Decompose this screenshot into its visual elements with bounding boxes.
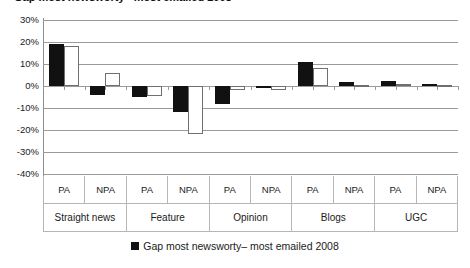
axis-tick [168, 86, 169, 90]
subcategory-label: NPA [251, 176, 292, 204]
axis-tick [251, 86, 252, 90]
axis-tick [396, 86, 397, 90]
subcategory-label: PA [44, 176, 85, 204]
bar [64, 46, 79, 86]
y-tick-label: -20% [5, 125, 39, 135]
group-label: Straight news [44, 204, 127, 231]
axis-tick [85, 86, 86, 90]
bar [339, 82, 354, 86]
subcategory-label: PA [127, 176, 168, 204]
group-row: Straight newsFeatureOpinionBlogsUGC [44, 204, 457, 231]
subcategory-label: PA [292, 176, 333, 204]
y-tick-label: 10% [5, 59, 39, 69]
y-tick-label: 30% [5, 15, 39, 25]
axis-tick [209, 86, 210, 90]
bar [173, 86, 188, 112]
legend-swatch-icon [131, 242, 139, 250]
bar [271, 86, 286, 90]
gridline--10 [43, 108, 458, 109]
bar [313, 68, 328, 86]
axis-tick [458, 86, 459, 90]
gridline-20 [43, 42, 458, 43]
subcategory-label: PA [210, 176, 251, 204]
bar [215, 86, 230, 104]
chart-legend: Gap most newsworty– most emailed 2008 [0, 240, 470, 252]
subcategory-label: NPA [85, 176, 126, 204]
y-tick-label: -10% [5, 103, 39, 113]
plot-area [43, 20, 458, 174]
bar [437, 85, 452, 87]
category-axis-table: PANPAPANPAPANPAPANPAPANPA Straight newsF… [43, 176, 458, 232]
bar [354, 85, 369, 87]
group-label: Feature [127, 204, 210, 231]
axis-tick [292, 86, 293, 90]
bar [132, 86, 147, 97]
subcategory-label: NPA [334, 176, 375, 204]
bar [105, 73, 120, 86]
axis-tick [313, 86, 314, 90]
y-tick-label: 0% [5, 81, 39, 91]
bar [49, 44, 64, 86]
bar [381, 81, 396, 87]
y-tick-label: -40% [5, 169, 39, 179]
gridline-10 [43, 64, 458, 65]
axis-tick [64, 86, 65, 90]
subcategory-label: NPA [168, 176, 209, 204]
gridline-30 [43, 20, 458, 21]
bar [422, 84, 437, 86]
group-label: Blogs [292, 204, 375, 231]
subcategory-label: PA [375, 176, 416, 204]
gridline--20 [43, 130, 458, 131]
axis-tick [334, 86, 335, 90]
bar [147, 86, 162, 96]
group-label: Opinion [210, 204, 293, 231]
subcategory-row: PANPAPANPAPANPAPANPAPANPA [44, 176, 457, 204]
bar [188, 86, 203, 134]
axis-tick [126, 86, 127, 90]
y-axis-tick-labels: 30%20%10%0%-10%-20%-30%-40% [0, 20, 39, 174]
bar [230, 86, 245, 90]
y-tick-label: -30% [5, 147, 39, 157]
subcategory-label: NPA [417, 176, 457, 204]
chart-title: Gap most newsworty– most emailed 2008 [14, 0, 454, 3]
axis-tick [375, 86, 376, 90]
bar [256, 86, 271, 88]
y-tick-label: 20% [5, 37, 39, 47]
chart-figure: Gap most newsworty– most emailed 2008 30… [0, 0, 470, 268]
bar [298, 62, 313, 86]
gridline--40 [43, 174, 458, 175]
axis-tick [105, 86, 106, 90]
bar [90, 86, 105, 95]
gridline--30 [43, 152, 458, 153]
bar [396, 84, 411, 86]
legend-label: Gap most newsworty– most emailed 2008 [143, 240, 339, 252]
axis-tick [417, 86, 418, 90]
group-label: UGC [375, 204, 457, 231]
axis-tick [43, 86, 44, 90]
